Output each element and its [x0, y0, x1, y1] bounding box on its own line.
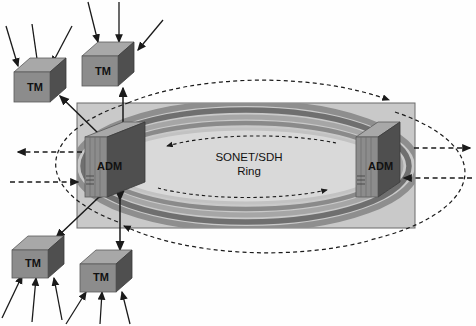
access-arrows-tm-bottom-mid	[66, 292, 130, 324]
access-arrows-tm-bottom-left	[2, 276, 62, 322]
diagram-canvas: SONET/SDH Ring ADM ADM TM TM TM TM	[0, 0, 476, 326]
left-dashed-tributaries	[10, 152, 82, 182]
tm-top-mid-node[interactable]	[82, 42, 134, 86]
adm-right-node[interactable]	[356, 122, 400, 197]
network-diagram-svg	[0, 0, 476, 326]
tm-top-left-node[interactable]	[14, 58, 66, 102]
tm-bottom-left-node[interactable]	[12, 236, 64, 278]
adm-left-node[interactable]	[85, 122, 145, 197]
tm-bottom-mid-node[interactable]	[80, 250, 132, 292]
